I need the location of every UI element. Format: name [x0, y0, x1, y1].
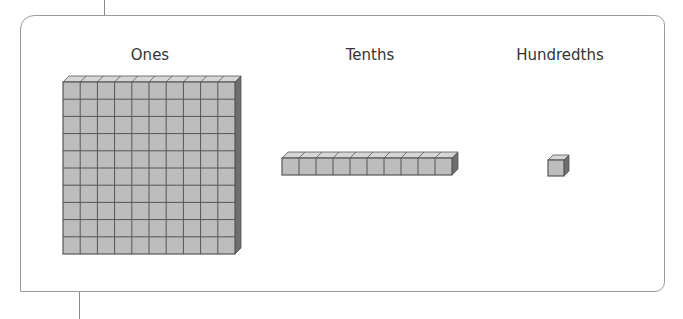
base-ten-blocks: [0, 0, 683, 319]
hundredths-unit-cube: [548, 155, 569, 176]
ones-flat-block: [63, 76, 241, 254]
tenths-rod-block: [282, 152, 458, 175]
